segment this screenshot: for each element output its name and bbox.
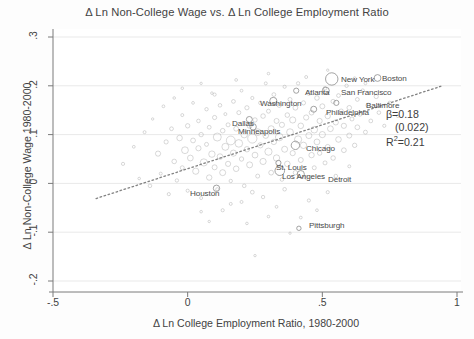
y-tick-label: .1 — [28, 118, 39, 148]
r-squared-symbol: R — [386, 136, 394, 148]
city-label: Houston — [190, 189, 219, 198]
x-tick-label: 1 — [437, 297, 474, 308]
y-tick-label: .2 — [28, 69, 39, 99]
city-label: Washington — [260, 99, 301, 108]
x-tick-label: -.5 — [33, 297, 73, 308]
city-label: Los Angeles — [282, 172, 325, 181]
x-axis-label: Δ Ln College Employment Ratio, 1980-2000 — [51, 317, 461, 329]
city-label: Detroit — [328, 175, 351, 184]
city-label: Pittsburgh — [309, 221, 344, 230]
y-tick-label: -.1 — [28, 216, 39, 246]
city-label: St. Louis — [276, 163, 307, 172]
y-tick-label: -.2 — [28, 265, 39, 295]
city-label: Atlanta — [305, 88, 330, 97]
scatter-plot-canvas — [0, 0, 474, 339]
city-label: San Francisco — [341, 88, 391, 97]
regression-stats: β=0.18 (0.022) R2=0.21 — [386, 108, 429, 148]
city-label: New York — [341, 75, 374, 84]
beta-coefficient: β=0.18 — [386, 108, 429, 121]
r-squared: R2=0.21 — [386, 133, 429, 148]
x-tick-label: 0 — [168, 297, 208, 308]
y-tick-label: .3 — [28, 21, 39, 51]
standard-error: (0.022) — [386, 121, 429, 134]
y-tick-label: 0 — [28, 167, 39, 197]
x-tick-label: .5 — [302, 297, 342, 308]
city-label: Boston — [382, 74, 407, 83]
city-label: Philadelphia — [326, 108, 369, 117]
chart-figure: Δ Ln Non-College Wage vs. Δ Ln College E… — [0, 0, 474, 339]
r-squared-value: =0.21 — [398, 136, 425, 148]
city-label: Chicago — [306, 144, 335, 153]
city-label: Minneapolis — [238, 127, 280, 136]
